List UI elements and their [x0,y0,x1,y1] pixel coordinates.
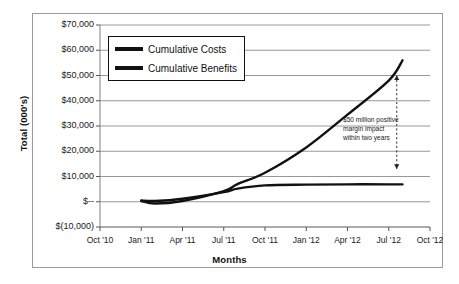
x-tick-label: Oct '10 [77,235,123,245]
legend-swatch-icon [115,66,143,69]
y-tick-label: $60,000 [38,44,94,54]
legend-swatch-icon [115,47,143,50]
x-tick-label: Oct '12 [407,235,453,245]
annotation-line-1: $50 million positive [343,115,438,124]
y-axis-title: Total (000's) [18,79,29,169]
annotation-text: $50 million positive margin impact withi… [343,115,438,142]
x-tick-marks-group [100,227,430,231]
cumulative-costs-benefits-chart: $70,000$60,000$50,000$40,000$30,000$20,0… [0,0,459,284]
x-tick-label: Jul '11 [201,235,247,245]
x-tick-label: Jan '11 [118,235,164,245]
x-tick-label: Jan '12 [283,235,329,245]
x-tick-label: Oct '11 [242,235,288,245]
y-tick-label: $30,000 [38,120,94,130]
legend-item-label: Cumulative Benefits [148,63,237,74]
y-tick-label: $50,000 [38,70,94,80]
legend-item-cumulative-costs: Cumulative Costs [115,40,226,58]
y-tick-label: $(10,000) [38,221,94,231]
y-tick-label: $40,000 [38,95,94,105]
y-tick-label: $10,000 [38,171,94,181]
x-axis-title: Months [0,254,459,265]
legend-item-label: Cumulative Costs [148,44,226,55]
legend-item-cumulative-benefits: Cumulative Benefits [115,59,237,77]
x-tick-label: Apr '11 [160,235,206,245]
x-tick-label: Apr '12 [325,235,371,245]
y-tick-label: $-- [38,196,94,206]
x-tick-label: Jul '12 [366,235,412,245]
chart-legend: Cumulative Costs Cumulative Benefits [108,36,245,81]
annotation-line-2: margin impact [343,124,438,133]
y-tick-label: $20,000 [38,145,94,155]
axis-lines-group [96,25,100,227]
annotation-line-3: within two years [343,133,438,142]
y-tick-label: $70,000 [38,19,94,29]
